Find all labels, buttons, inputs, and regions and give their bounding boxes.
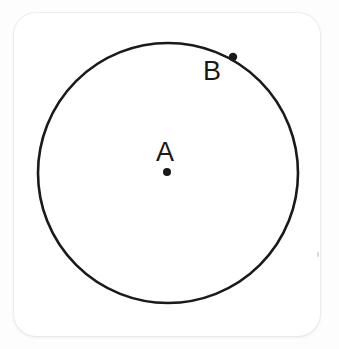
paper-card <box>14 13 320 336</box>
scan-speck-artifact <box>317 252 319 257</box>
center-point-label-A: A <box>156 139 174 166</box>
figure-root: A B <box>0 0 339 349</box>
circumference-point-label-B: B <box>203 58 221 85</box>
